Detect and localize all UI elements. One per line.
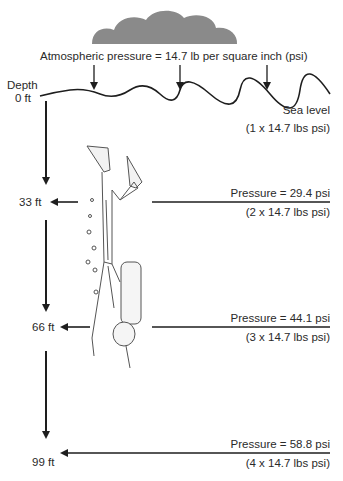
sea-level-label: Sea level (283, 104, 330, 117)
depth-label-33ft: 33 ft (19, 196, 41, 209)
pressure-99ft-label: Pressure = 58.8 psi (231, 438, 330, 451)
sea-level-formula: (1 x 14.7 lbs psi) (246, 122, 330, 135)
atmospheric-pressure-label: Atmospheric pressure = 14.7 lb per squar… (40, 50, 308, 63)
cloud-icon (92, 11, 237, 44)
sea-surface-wave (40, 74, 330, 108)
pressure-33ft-label: Pressure = 29.4 psi (231, 187, 330, 200)
pressure-66ft-label: Pressure = 44.1 psi (231, 312, 330, 325)
depth-label-99ft: 99 ft (32, 456, 54, 469)
depth-axis-title: Depth (7, 79, 38, 92)
diver-illustration (86, 146, 142, 368)
pressure-33ft-formula: (2 x 14.7 lbs psi) (246, 206, 330, 219)
depth-label-66ft: 66 ft (32, 321, 54, 334)
pressure-66ft-formula: (3 x 14.7 lbs psi) (246, 331, 330, 344)
diagram-canvas (0, 0, 343, 481)
depth-label-0ft: 0 ft (15, 92, 31, 105)
pressure-99ft-formula: (4 x 14.7 lbs psi) (246, 457, 330, 470)
